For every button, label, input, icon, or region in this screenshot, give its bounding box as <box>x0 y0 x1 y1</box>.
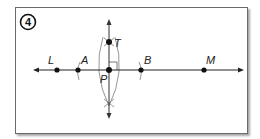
arrow-down-icon <box>107 113 112 119</box>
label-l: L <box>48 54 54 66</box>
point-m <box>201 67 206 72</box>
label-t: T <box>114 37 122 49</box>
point-l <box>54 67 59 72</box>
point-t <box>106 39 112 45</box>
arrow-right-icon <box>238 68 244 73</box>
step-number: 4 <box>25 16 32 28</box>
points <box>54 39 206 73</box>
arrow-left-icon <box>33 68 39 73</box>
point-a <box>75 67 80 72</box>
label-b: B <box>144 54 151 66</box>
geometry-diagram: 4 L A P B M T <box>0 0 260 139</box>
step-number-badge: 4 <box>21 15 36 30</box>
label-m: M <box>206 54 216 66</box>
point-b <box>138 67 143 72</box>
arrow-up-icon <box>107 19 112 25</box>
label-p: P <box>100 73 108 85</box>
label-a: A <box>80 54 88 66</box>
